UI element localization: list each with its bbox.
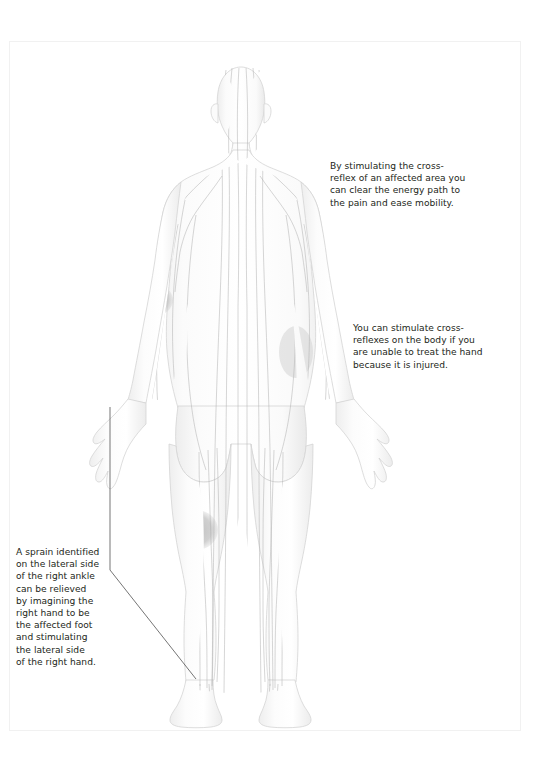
callout-cross-reflex: By stimulating the cross- reflex of an a…: [330, 160, 505, 209]
right-hand-shape: [336, 399, 392, 489]
left-hand-shape: [90, 399, 146, 489]
left-ear-shape: [211, 104, 218, 123]
right-foot-shape: [259, 680, 311, 728]
leader-line-text-to-ankle: [110, 570, 196, 679]
left-foot-shape: [170, 680, 222, 728]
page-root: By stimulating the cross- reflex of an a…: [0, 0, 553, 771]
right-ear-shape: [264, 104, 271, 123]
callout-stimulate-body: You can stimulate cross- reflexes on the…: [353, 322, 528, 371]
callout-sprain: A sprain identified on the lateral side …: [16, 546, 121, 668]
head-shape: [217, 67, 265, 152]
hips-shape: [176, 406, 307, 482]
